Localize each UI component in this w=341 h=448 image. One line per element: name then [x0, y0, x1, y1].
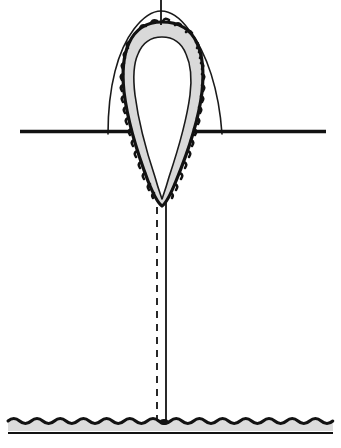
- figure-root: [0, 0, 341, 448]
- axis-substrate-junction-dot: [160, 419, 169, 425]
- diagram-canvas: [0, 0, 341, 448]
